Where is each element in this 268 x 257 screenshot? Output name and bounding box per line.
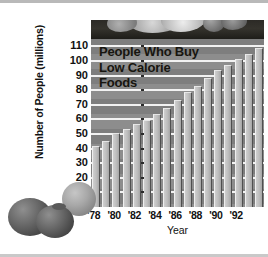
bar	[204, 78, 212, 207]
y-axis-tick-label: 70	[58, 99, 88, 110]
bar	[153, 114, 161, 207]
y-axis-tick-mark	[141, 60, 144, 62]
y-axis-tick-mark	[141, 148, 144, 150]
y-axis-tick-label: 110	[58, 40, 88, 51]
bar	[194, 86, 202, 207]
chart-title-line-a: People Who Buy	[99, 44, 249, 60]
y-axis-tick-label: 20	[58, 172, 88, 183]
y-axis-tick-mark	[141, 177, 144, 179]
chart-title-line-c: Foods	[99, 75, 249, 91]
chart-figure: People Who Buy Low Calorie Foods People …	[0, 0, 268, 257]
y-axis-tick-mark	[141, 133, 144, 135]
celery-icon	[107, 20, 137, 32]
y-axis-tick-mark	[141, 191, 144, 193]
y-axis-tick-label: 60	[58, 113, 88, 124]
x-axis-tick-label: '90	[209, 209, 222, 221]
bar	[143, 120, 151, 207]
y-axis-tick-label: 80	[58, 84, 88, 95]
bar	[255, 48, 263, 207]
y-axis-tick-mark	[141, 118, 144, 120]
x-axis-tick-label: '82	[128, 209, 141, 221]
tomato-stem-icon	[52, 203, 66, 210]
bar	[112, 133, 120, 207]
y-axis-tick-mark	[141, 75, 144, 77]
bar	[174, 100, 182, 207]
chart-title-line-b: Low Calorie	[99, 60, 249, 76]
bar	[214, 70, 222, 207]
bar	[123, 129, 131, 207]
chart-title: People Who Buy Low Calorie Foods People …	[99, 44, 249, 91]
x-axis-tick-label: '80	[107, 209, 120, 221]
y-axis-tick-label: 100	[58, 55, 88, 66]
tomato-icon	[36, 205, 74, 238]
x-axis-ticks: '78'80'82'84'86'88'90'92	[91, 209, 264, 223]
y-axis-tick-mark	[141, 104, 144, 106]
y-axis-tick-label: 50	[58, 128, 88, 139]
y-axis-tick-label: 40	[58, 143, 88, 154]
y-axis-tick-label: 30	[58, 157, 88, 168]
y-axis-tick-mark	[141, 45, 144, 47]
x-axis-tick-label: '84	[148, 209, 161, 221]
y-axis-label: Number of People (millions)	[33, 17, 45, 167]
y-axis-tick-mark	[141, 162, 144, 164]
x-axis-label: Year	[91, 224, 264, 236]
bar	[102, 141, 110, 207]
x-axis-tick-label: '86	[169, 209, 182, 221]
x-axis-tick-label: '92	[230, 209, 243, 221]
pepper-icon	[221, 20, 247, 30]
produce-art-band	[91, 20, 264, 39]
y-axis-tick-label: 90	[58, 70, 88, 81]
bar	[184, 92, 192, 207]
bar	[163, 108, 171, 207]
bar	[133, 124, 141, 207]
x-axis-tick-label: '88	[189, 209, 202, 221]
y-axis-tick-mark	[141, 89, 144, 91]
